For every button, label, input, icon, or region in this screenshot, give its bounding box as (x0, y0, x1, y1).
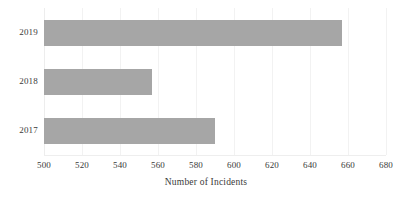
x-axis-tick-label: 580 (176, 160, 216, 170)
x-axis-tick-label: 640 (290, 160, 330, 170)
bar (44, 69, 152, 95)
x-axis-tick-label: 680 (366, 160, 406, 170)
gridline (386, 8, 387, 155)
x-axis-tick-label: 520 (62, 160, 102, 170)
x-axis-tick-label: 660 (328, 160, 368, 170)
x-axis-tick-label: 540 (100, 160, 140, 170)
x-axis-title: Number of Incidents (0, 177, 412, 187)
bar (44, 20, 342, 46)
x-axis-line (44, 155, 386, 156)
y-axis-tick-label: 2017 (0, 125, 38, 135)
bar-row (44, 118, 386, 144)
bar-row (44, 20, 386, 46)
y-axis-tick-label: 2019 (0, 27, 38, 37)
x-axis-tick-label: 500 (24, 160, 64, 170)
x-axis-tick-label: 620 (252, 160, 292, 170)
y-axis-tick-label: 2018 (0, 76, 38, 86)
plot-area (44, 8, 386, 155)
bar-row (44, 69, 386, 95)
x-axis-tick-label: 560 (138, 160, 178, 170)
bar-chart: 201920182017 500520540560580600620640660… (0, 0, 412, 202)
bar (44, 118, 215, 144)
x-axis-tick-label: 600 (214, 160, 254, 170)
